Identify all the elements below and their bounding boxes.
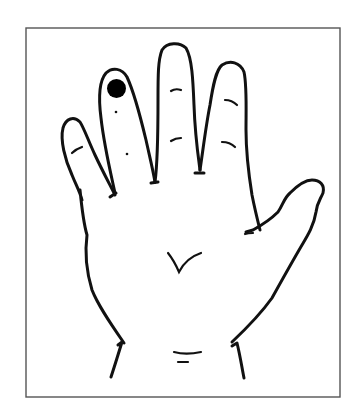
- speck-lower: [126, 153, 129, 156]
- crease-middle-lower: [171, 138, 181, 141]
- hand-figure: [0, 0, 360, 420]
- creases: [72, 89, 253, 362]
- finger-fourth-outline: [200, 62, 260, 230]
- crease-thumb-base: [245, 233, 253, 234]
- crease-left-finger: [72, 147, 82, 153]
- palm-v-crease: [168, 253, 201, 272]
- crease-fourth-lower: [222, 142, 235, 147]
- diagram-canvas: Hand diagram with marked point on finger…: [0, 0, 360, 420]
- marker-dot: [107, 79, 126, 98]
- crease-fourth-upper: [225, 100, 237, 105]
- thumb-outline: [232, 180, 323, 342]
- finger-middle-outline: [155, 44, 200, 182]
- wrist-left: [111, 342, 122, 377]
- wrist-right: [232, 343, 244, 378]
- figure-frame: [26, 28, 340, 397]
- hand-outline: [62, 44, 323, 378]
- crease-middle-upper: [171, 89, 181, 91]
- speck-upper: [115, 111, 118, 114]
- wrist-crease-upper: [174, 352, 201, 354]
